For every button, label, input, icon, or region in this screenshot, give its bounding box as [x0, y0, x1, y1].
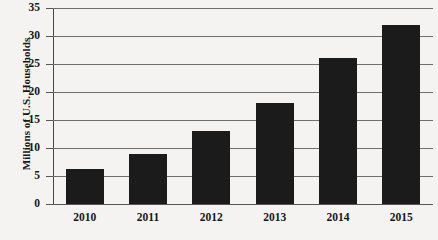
- bar: [382, 25, 420, 204]
- bar: [129, 154, 167, 204]
- bar: [319, 58, 357, 204]
- y-axis-tick: [46, 64, 53, 65]
- y-axis-tick-label: 20: [10, 86, 40, 98]
- gridline: [53, 204, 433, 205]
- y-axis-tick: [46, 204, 53, 205]
- x-axis-tick-label: 2013: [245, 212, 305, 224]
- gridline: [53, 64, 433, 65]
- y-axis-tick-label: 30: [10, 30, 40, 42]
- x-axis-tick-label: 2014: [308, 212, 368, 224]
- bar: [192, 131, 230, 204]
- gridline: [53, 8, 433, 9]
- y-axis-tick: [46, 176, 53, 177]
- x-axis-tick-label: 2011: [118, 212, 178, 224]
- x-axis-tick-label: 2010: [55, 212, 115, 224]
- y-axis-tick: [46, 8, 53, 9]
- x-axis-tick-label: 2015: [371, 212, 431, 224]
- y-axis-tick-label: 25: [10, 58, 40, 70]
- gridline: [53, 120, 433, 121]
- gridline: [53, 36, 433, 37]
- gridline: [53, 92, 433, 93]
- y-axis-tick-label: 0: [10, 198, 40, 210]
- x-axis-tick-label: 2012: [181, 212, 241, 224]
- bar: [66, 169, 104, 204]
- y-axis-tick: [46, 120, 53, 121]
- y-axis-tick-label: 15: [10, 114, 40, 126]
- y-axis-tick: [46, 148, 53, 149]
- bar-chart: Millions of U.S. Households 051015202530…: [0, 0, 438, 240]
- y-axis-tick-label: 5: [10, 170, 40, 182]
- gridline: [53, 176, 433, 177]
- gridline: [53, 148, 433, 149]
- y-axis-tick-label: 35: [10, 2, 40, 14]
- plot-area: [53, 8, 433, 204]
- y-axis-tick-label: 10: [10, 142, 40, 154]
- y-axis-tick: [46, 92, 53, 93]
- bar: [256, 103, 294, 204]
- y-axis-tick: [46, 36, 53, 37]
